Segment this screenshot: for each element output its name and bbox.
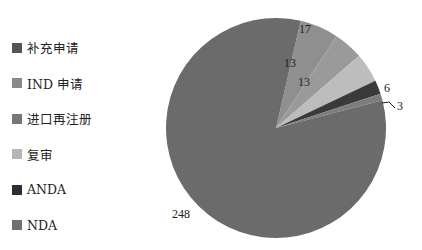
data-label: 17 [299, 22, 311, 36]
data-label: 248 [172, 207, 190, 221]
data-label: 6 [384, 81, 390, 95]
data-label: 13 [284, 56, 296, 70]
pie-chart: 17131363248 [0, 0, 422, 250]
data-label: 13 [298, 75, 310, 89]
data-label: 3 [397, 99, 403, 113]
